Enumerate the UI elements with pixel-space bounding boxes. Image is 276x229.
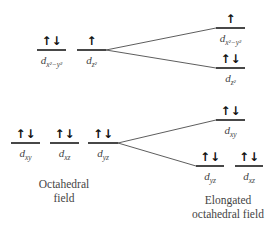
octahedral-caption-line1: Octahedral bbox=[39, 178, 89, 190]
electron-up-icon: ↑ bbox=[225, 12, 235, 26]
orbital-label: dx²−y² bbox=[41, 54, 63, 69]
electron-pair-icon: ↑↓ bbox=[200, 150, 220, 164]
elong-dyz-level: ↑↓ dyz bbox=[196, 150, 224, 185]
splitting-diagram: ↑↓ dx²−y² ↑ dz² ↑ dx²−y² ↑↓ dz² ↑↓ dxy ↑… bbox=[0, 0, 276, 229]
electron-pair-icon: ↑↓ bbox=[54, 127, 74, 141]
oct-t2g-dyz-level: ↑↓ dyz bbox=[88, 127, 118, 162]
orbital-label: dx²−y² bbox=[220, 32, 242, 47]
electron-pair-icon: ↑↓ bbox=[220, 52, 240, 66]
oct-eg-dx2y2-level: ↑↓ dx²−y² bbox=[37, 34, 66, 69]
elong-dxy-level: ↑↓ dxy bbox=[216, 104, 245, 139]
orbital-label: dyz bbox=[204, 170, 216, 185]
elong-dxz-level: ↑↓ dxz bbox=[235, 150, 263, 185]
orbital-label: dz² bbox=[225, 72, 236, 87]
connector-line bbox=[118, 120, 216, 143]
orbital-label: dyz bbox=[97, 147, 109, 162]
elongated-caption-line1: Elongated bbox=[205, 194, 252, 207]
electron-pair-icon: ↑↓ bbox=[93, 127, 113, 141]
orbital-label: dxz bbox=[59, 147, 71, 162]
orbital-label: dxy bbox=[224, 124, 237, 139]
oct-t2g-dxz-level: ↑↓ dxz bbox=[50, 127, 79, 162]
elong-dz2-level: ↑↓ dz² bbox=[216, 52, 245, 87]
octahedral-caption-line2: field bbox=[53, 192, 74, 204]
electron-up-icon: ↑ bbox=[86, 34, 96, 48]
oct-eg-dz2-level: ↑ dz² bbox=[77, 34, 106, 69]
electron-pair-icon: ↑↓ bbox=[41, 34, 61, 48]
orbital-label: dxy bbox=[19, 147, 32, 162]
connector-line bbox=[106, 28, 216, 50]
elongated-caption-line2: octahedral field bbox=[192, 208, 264, 220]
connector-line bbox=[106, 50, 216, 68]
electron-pair-icon: ↑↓ bbox=[15, 127, 35, 141]
oct-t2g-dxy-level: ↑↓ dxy bbox=[11, 127, 40, 162]
electron-pair-icon: ↑↓ bbox=[220, 104, 240, 118]
orbital-label: dxz bbox=[243, 170, 255, 185]
orbital-label: dz² bbox=[86, 54, 97, 69]
electron-pair-icon: ↑↓ bbox=[239, 150, 259, 164]
elong-dx2y2-level: ↑ dx²−y² bbox=[216, 12, 245, 47]
connector-line bbox=[118, 143, 196, 166]
